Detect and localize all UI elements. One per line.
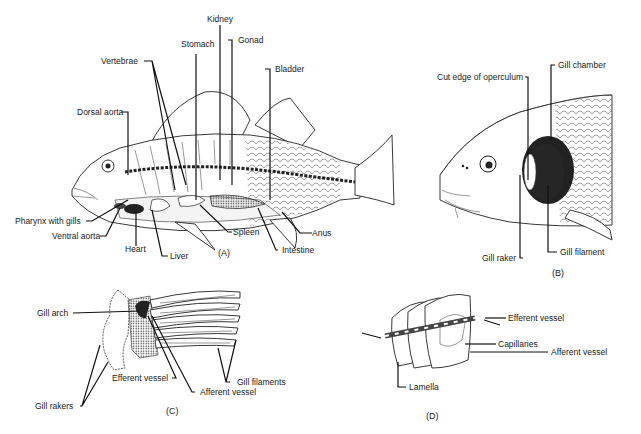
label-afferent-vessel-c: Afferent vessel — [200, 387, 256, 397]
label-efferent-vessel-d: Efferent vessel — [508, 313, 564, 323]
label-gill-chamber: Gill chamber — [558, 60, 606, 70]
label-intestine: Intestine — [282, 245, 314, 255]
label-cut-edge-of-operculum: Cut edge of operculum — [437, 72, 523, 82]
label-lamella: Lamella — [409, 382, 439, 392]
label-bladder: Bladder — [275, 64, 304, 74]
label-pharynx-with-gills: Pharynx with gills — [15, 216, 81, 226]
anal-fin — [270, 218, 297, 248]
label-heart: Heart — [125, 244, 146, 254]
label-dorsal-aorta: Dorsal aorta — [77, 107, 124, 117]
panel-b: Cut edge of operculum Gill chamber Gill … — [437, 60, 612, 278]
label-stomach: Stomach — [181, 39, 215, 49]
label-anus: Anus — [312, 228, 331, 238]
label-ventral-aorta: Ventral aorta — [52, 231, 100, 241]
label-efferent-vessel-c: Efferent vessel — [112, 373, 168, 383]
label-gill-raker: Gill raker — [482, 253, 516, 263]
label-gill-filaments: Gill filaments — [237, 377, 286, 387]
label-afferent-vessel-d: Afferent vessel — [551, 347, 607, 357]
label-capillaries: Capillaries — [498, 339, 538, 349]
label-vertebrae: Vertebrae — [101, 56, 138, 66]
heart-organ — [124, 204, 144, 214]
label-kidney: Kidney — [207, 14, 234, 24]
panel-a: Kidney Gonad Stomach Vertebrae Bladder D… — [15, 14, 394, 261]
label-gill-arch: Gill arch — [37, 308, 68, 318]
panel-label-c: (C) — [166, 406, 179, 416]
label-gill-rakers: Gill rakers — [35, 401, 73, 411]
panel-d: Efferent vessel Capillaries Afferent ves… — [362, 294, 607, 421]
gill-raker-shape — [103, 290, 130, 370]
gill-filament-rows — [150, 291, 240, 348]
lamella-drawing — [362, 294, 500, 368]
panel-c: Gill arch Efferent vessel Afferent vesse… — [35, 290, 286, 416]
label-gonad: Gonad — [238, 35, 264, 45]
label-liver: Liver — [170, 251, 189, 261]
gill-arch-drawing — [103, 290, 240, 370]
caudal-fin — [355, 135, 394, 205]
label-gill-filament: Gill filament — [560, 247, 605, 257]
label-spleen: Spleen — [233, 227, 260, 237]
panel-label-b: (B) — [552, 268, 564, 278]
figure-canvas: Kidney Gonad Stomach Vertebrae Bladder D… — [0, 0, 641, 434]
fish-head-drawing — [440, 95, 612, 240]
panel-label-a: (A) — [218, 248, 230, 258]
panel-label-d: (D) — [426, 411, 439, 421]
